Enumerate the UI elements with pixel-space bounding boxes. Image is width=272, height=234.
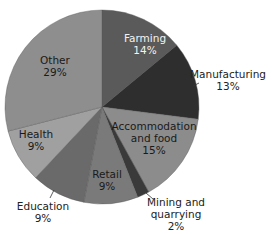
label-farming-name: Farming [124, 32, 166, 44]
label-education-name: Education [17, 200, 69, 212]
label-other-pct: 29% [40, 66, 70, 78]
label-accommodation-pct: 15% [111, 144, 196, 156]
label-manufacturing-name: Manufacturing [190, 68, 266, 80]
label-education: Education 9% [17, 200, 69, 224]
label-health-name: Health [19, 128, 53, 140]
education-leader [50, 190, 54, 198]
label-other: Other 29% [40, 54, 70, 78]
label-mining: Mining and quarrying 2% [147, 196, 205, 232]
label-farming-pct: 14% [124, 44, 166, 56]
label-accommodation-line1: Accommodation [111, 120, 196, 132]
label-education-pct: 9% [17, 212, 69, 224]
label-accommodation: Accommodation and food 15% [111, 120, 196, 156]
label-farming: Farming 14% [124, 32, 166, 56]
label-retail: Retail 9% [92, 168, 122, 192]
label-accommodation-line2: and food [111, 132, 196, 144]
label-retail-name: Retail [92, 168, 122, 180]
label-mining-line2: quarrying [147, 208, 205, 220]
label-mining-pct: 2% [147, 220, 205, 232]
label-manufacturing: Manufacturing 13% [190, 68, 266, 92]
label-retail-pct: 9% [92, 180, 122, 192]
label-health: Health 9% [19, 128, 53, 152]
label-mining-line1: Mining and [147, 196, 205, 208]
label-other-name: Other [40, 54, 70, 66]
label-manufacturing-pct: 13% [190, 80, 266, 92]
label-health-pct: 9% [19, 140, 53, 152]
